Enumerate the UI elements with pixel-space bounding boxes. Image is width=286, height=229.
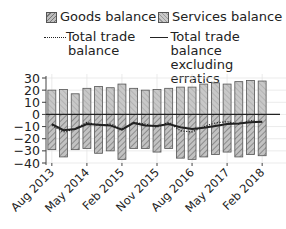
- services-bar: [71, 94, 79, 115]
- services-bar: [83, 88, 91, 114]
- services-bar: [106, 88, 114, 115]
- goods-bar: [223, 114, 231, 152]
- goods-bar: [141, 114, 149, 148]
- chart-plot: 3020100−10−20−30−40 Aug 2013May 2014Feb …: [0, 0, 286, 229]
- services-bar: [247, 80, 255, 114]
- services-bar: [200, 84, 208, 114]
- goods-bar: [165, 114, 173, 148]
- y-axis: 3020100−10−20−30−40: [14, 71, 46, 171]
- goods-bar: [106, 114, 114, 150]
- services-bar: [130, 88, 138, 114]
- services-bar: [48, 90, 56, 114]
- goods-bar: [71, 114, 79, 149]
- goods-bar: [258, 114, 266, 155]
- services-bar: [235, 82, 243, 115]
- goods-bar: [130, 114, 138, 148]
- goods-bar: [48, 114, 56, 149]
- bars: [46, 80, 280, 159]
- goods-bar: [211, 114, 219, 154]
- services-bar: [60, 90, 68, 115]
- services-bar: [118, 84, 126, 114]
- services-bar: [176, 87, 184, 114]
- goods-bar: [247, 114, 255, 154]
- services-bar: [211, 83, 219, 115]
- goods-bar: [200, 114, 208, 157]
- goods-bar: [188, 114, 196, 159]
- services-bar: [165, 88, 173, 114]
- goods-bar: [83, 114, 91, 148]
- goods-bar: [95, 114, 103, 153]
- services-bar: [141, 90, 149, 114]
- services-bar: [95, 87, 103, 115]
- y-tick-label: −40: [14, 156, 40, 171]
- goods-bar: [235, 114, 243, 157]
- services-bar: [258, 81, 266, 114]
- services-bar: [153, 90, 161, 115]
- services-bar: [188, 87, 196, 114]
- goods-bar: [176, 114, 184, 158]
- goods-bar: [60, 114, 68, 157]
- goods-bar: [153, 114, 161, 152]
- services-bar: [223, 84, 231, 114]
- x-axis: Aug 2013May 2014Feb 2015Nov 2015Aug 2016…: [8, 163, 267, 215]
- goods-bar: [118, 114, 126, 159]
